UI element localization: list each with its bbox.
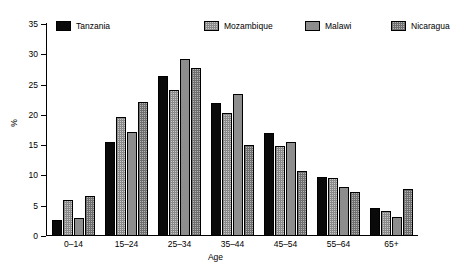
bar-mozambique-0_14 bbox=[63, 200, 74, 236]
bar-mozambique-65+ bbox=[381, 211, 392, 236]
bar-nicaragua-15_24 bbox=[138, 102, 149, 236]
x-tick-label: 25–34 bbox=[150, 240, 210, 249]
y-tick-label: 10 bbox=[20, 171, 38, 180]
bar-tanzania-55_64 bbox=[317, 177, 328, 236]
bar-tanzania-15_24 bbox=[105, 142, 116, 236]
bar-mozambique-15_24 bbox=[116, 117, 127, 236]
x-tick-label: 0–14 bbox=[44, 240, 104, 249]
y-tick-mark bbox=[41, 115, 46, 116]
y-axis-title: % bbox=[9, 103, 19, 143]
bar-tanzania-35_44 bbox=[211, 103, 222, 236]
bar-malawi-35_44 bbox=[233, 94, 244, 236]
bar-malawi-45_54 bbox=[286, 142, 297, 236]
y-tick-mark bbox=[41, 175, 46, 176]
y-tick-label: 0 bbox=[20, 232, 38, 241]
y-tick-label: 35 bbox=[20, 20, 38, 29]
x-tick-label: 45–54 bbox=[256, 240, 316, 249]
y-tick-label: 30 bbox=[20, 50, 38, 59]
plot-area bbox=[47, 24, 418, 236]
bar-nicaragua-35_44 bbox=[244, 145, 255, 236]
bar-nicaragua-45_54 bbox=[297, 171, 308, 236]
y-tick-mark bbox=[41, 85, 46, 86]
bar-nicaragua-65+ bbox=[403, 189, 414, 236]
y-tick-label: 15 bbox=[20, 141, 38, 150]
bar-tanzania-65+ bbox=[370, 208, 381, 236]
bar-nicaragua-25_34 bbox=[191, 68, 202, 236]
bar-malawi-15_24 bbox=[127, 132, 138, 236]
x-tick-label: 35–44 bbox=[203, 240, 263, 249]
x-tick-label: 15–24 bbox=[97, 240, 157, 249]
bar-malawi-25_34 bbox=[180, 59, 191, 236]
y-tick-mark bbox=[41, 24, 46, 25]
x-axis-title: Age bbox=[0, 252, 431, 262]
y-tick-mark bbox=[41, 206, 46, 207]
x-tick-label: 55–64 bbox=[309, 240, 369, 249]
bar-tanzania-25_34 bbox=[158, 76, 169, 236]
bar-tanzania-0_14 bbox=[52, 220, 63, 236]
y-tick-mark bbox=[41, 145, 46, 146]
bar-mozambique-35_44 bbox=[222, 113, 233, 236]
y-tick-label: 25 bbox=[20, 81, 38, 90]
bar-mozambique-45_54 bbox=[275, 146, 286, 236]
y-tick-label: 20 bbox=[20, 111, 38, 120]
bar-tanzania-45_54 bbox=[264, 133, 275, 236]
bar-mozambique-25_34 bbox=[169, 90, 180, 236]
y-tick-label: 5 bbox=[20, 202, 38, 211]
x-tick-label: 65+ bbox=[362, 240, 422, 249]
bar-nicaragua-0_14 bbox=[85, 196, 96, 236]
bar-mozambique-55_64 bbox=[328, 178, 339, 236]
bar-malawi-65+ bbox=[392, 217, 403, 236]
bar-nicaragua-55_64 bbox=[350, 192, 361, 236]
y-tick-mark bbox=[41, 236, 46, 237]
y-tick-mark bbox=[41, 54, 46, 55]
bar-malawi-0_14 bbox=[74, 218, 85, 236]
bar-malawi-55_64 bbox=[339, 187, 350, 236]
